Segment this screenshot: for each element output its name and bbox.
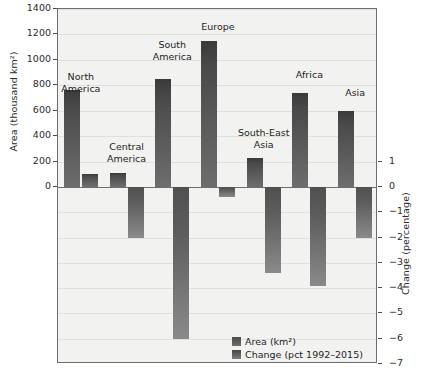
- legend-label-change: Change (pct 1992–2015): [245, 348, 363, 361]
- gridline: [58, 162, 376, 163]
- y-tick-label-right: −7: [389, 358, 421, 368]
- legend-label-area: Area (km²): [245, 335, 296, 348]
- bar-area: [155, 79, 171, 187]
- bar-change: [265, 187, 281, 273]
- bar-area: [201, 41, 217, 187]
- chart-figure: Area (thousand km²) Change (percentage) …: [0, 0, 421, 372]
- legend-swatch-area-icon: [232, 337, 241, 346]
- gridline: [58, 288, 376, 289]
- bar-change: [173, 187, 189, 339]
- gridline: [58, 34, 376, 35]
- y-tick-label-right: −2: [389, 232, 421, 242]
- group-label-south-east-asia: South-East Asia: [233, 127, 295, 150]
- bar-change: [82, 174, 98, 187]
- y-tickmark-right: [378, 211, 382, 212]
- gridline: [58, 111, 376, 112]
- y-tick-label-left: 200: [17, 156, 51, 166]
- bar-change: [356, 187, 372, 238]
- y-tickmark-right: [378, 338, 382, 339]
- gridline: [58, 136, 376, 137]
- bar-change: [219, 187, 235, 197]
- gridline: [58, 60, 376, 61]
- bar-area: [247, 158, 263, 187]
- legend-item-change: Change (pct 1992–2015): [232, 348, 363, 361]
- bar-area: [338, 111, 354, 187]
- y-tickmark-right: [378, 363, 382, 364]
- gridline: [58, 212, 376, 213]
- group-label-europe: Europe: [187, 21, 249, 33]
- bar-area: [292, 93, 308, 187]
- y-tickmark-right: [378, 161, 382, 162]
- gridline: [58, 238, 376, 239]
- y-tick-label-right: −6: [389, 333, 421, 343]
- gridline: [58, 313, 376, 314]
- chart-legend: Area (km²) Change (pct 1992–2015): [232, 335, 363, 361]
- y-tick-label-left: 1000: [17, 54, 51, 64]
- group-label-central-america: Central America: [96, 141, 158, 164]
- y-tickmark-right: [378, 186, 382, 187]
- y-tick-label-right: 1: [389, 156, 421, 166]
- y-tick-label-right: −4: [389, 282, 421, 292]
- legend-swatch-change-icon: [232, 350, 241, 359]
- y-tick-label-left: 600: [17, 105, 51, 115]
- y-tick-label-right: 0: [389, 181, 421, 191]
- plot-area: North AmericaCentral AmericaSouth Americ…: [57, 8, 377, 363]
- zero-baseline: [58, 187, 376, 188]
- y-tickmark-right: [378, 312, 382, 313]
- y-tickmark-right: [378, 237, 382, 238]
- y-tick-label-left: 800: [17, 79, 51, 89]
- legend-item-area: Area (km²): [232, 335, 363, 348]
- y-tick-label-left: 0: [17, 181, 51, 191]
- bar-change: [310, 187, 326, 286]
- group-label-asia: Asia: [324, 87, 377, 99]
- y-tick-label-left: 1200: [17, 28, 51, 38]
- y-tick-label-left: 1400: [17, 3, 51, 13]
- y-tickmark-right: [378, 287, 382, 288]
- bar-area: [64, 90, 80, 187]
- group-label-south-america: South America: [141, 39, 203, 62]
- bar-area: [110, 173, 126, 187]
- group-label-africa: Africa: [279, 69, 341, 81]
- bar-change: [128, 187, 144, 238]
- y-tickmark-right: [378, 262, 382, 263]
- y-tick-label-left: 400: [17, 130, 51, 140]
- gridline: [58, 9, 376, 10]
- gridline: [58, 85, 376, 86]
- y-tick-label-right: −1: [389, 206, 421, 216]
- gridline: [58, 263, 376, 264]
- y-tick-label-right: −3: [389, 257, 421, 267]
- y-tick-label-right: −5: [389, 307, 421, 317]
